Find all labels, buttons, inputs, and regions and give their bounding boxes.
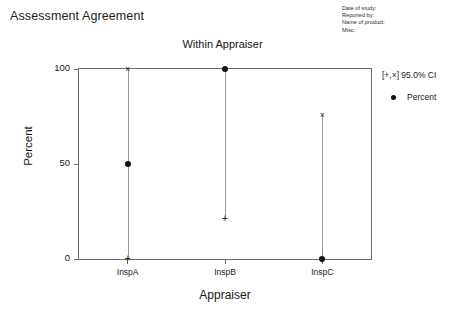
x-tick-label: InspC [282, 267, 362, 277]
meta-date-of-study: Date of study: [342, 5, 467, 12]
ci-lower-plus-marker: + [222, 214, 228, 224]
meta-name-of-product: Name of product: [342, 19, 467, 26]
ci-interval-line [225, 69, 226, 219]
y-tick-mark [74, 69, 79, 70]
percent-point-marker [125, 161, 131, 167]
y-tick-label: 0 [65, 252, 70, 263]
x-tick-label: InspA [88, 267, 168, 277]
percent-point-marker [222, 66, 228, 72]
x-tick-mark [225, 259, 226, 264]
legend-ci-label: [+,×] 95.0% CI [382, 70, 472, 80]
chart-legend: [+,×] 95.0% CI Percent [382, 70, 472, 102]
ci-upper-cross-marker: × [125, 65, 130, 74]
y-tick-mark [74, 164, 79, 165]
legend-percent-entry: Percent [382, 92, 472, 102]
filled-circle-marker-icon [391, 95, 396, 100]
chart-title: Within Appraiser [0, 38, 445, 50]
y-tick-label: 100 [54, 62, 70, 73]
assessment-agreement-report: Assessment Agreement Date of study: Repo… [0, 0, 473, 314]
report-title: Assessment Agreement [10, 9, 144, 23]
study-metadata-block: Date of study: Reported by: Name of prod… [342, 5, 467, 34]
ci-upper-cross-marker: × [320, 110, 325, 119]
y-axis-title: Percent [22, 101, 34, 191]
y-tick-mark [74, 259, 79, 260]
plot-inner: 050100InspAInspBInspC×+×+×+ [79, 69, 371, 259]
meta-misc: Misc: [342, 27, 467, 34]
meta-reported-by: Reported by: [342, 12, 467, 19]
legend-percent-label: Percent [407, 92, 436, 102]
x-tick-label: InspB [185, 267, 265, 277]
plot-area: 050100InspAInspBInspC×+×+×+ [78, 68, 372, 260]
y-tick-label: 50 [59, 157, 70, 168]
x-axis-title: Appraiser [78, 288, 372, 302]
ci-interval-line [322, 115, 323, 259]
ci-lower-plus-marker: + [125, 254, 131, 264]
